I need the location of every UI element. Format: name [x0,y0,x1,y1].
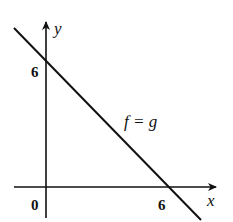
y-axis-label: y [52,19,62,38]
y-tick-label: 6 [31,64,39,80]
x-axis-label: x [206,191,215,210]
line-f-equals-g [14,28,201,220]
origin-label: 0 [31,197,39,213]
graph: y x 0 6 6 f = g [0,0,233,222]
x-tick-label: 6 [158,197,166,213]
line-label: f = g [124,112,157,131]
